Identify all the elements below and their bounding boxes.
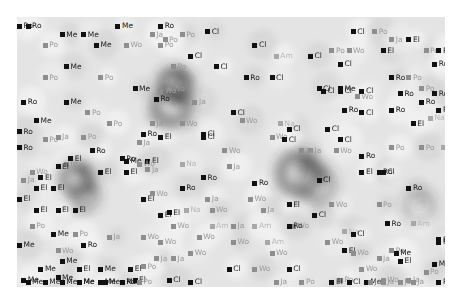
marker-square-icon	[325, 127, 330, 132]
marker-square-icon	[205, 29, 210, 34]
label-text: El	[79, 206, 86, 214]
label-text: Wo	[336, 201, 348, 209]
map-label-cl: Cl	[359, 109, 373, 117]
map-label-cl: Cl	[188, 278, 202, 286]
map-label-ro: Ro	[17, 144, 33, 152]
marker-square-icon	[308, 54, 313, 59]
marker-square-icon	[424, 48, 429, 53]
map-label-wo: Wo	[141, 233, 159, 241]
map-label-wo: Wo	[248, 195, 266, 203]
marker-square-icon	[248, 197, 253, 202]
map-label-el: El	[98, 168, 111, 176]
marker-square-icon	[150, 191, 155, 196]
map-label-el: El	[17, 195, 30, 203]
marker-square-icon	[21, 100, 26, 105]
marker-square-icon	[359, 154, 364, 159]
map-label-me: Me	[43, 278, 61, 286]
map-label-ja: Ja	[21, 176, 34, 184]
marker-square-icon	[201, 132, 206, 137]
label-text: Ro	[126, 278, 135, 286]
label-text: Ro	[443, 238, 445, 246]
marker-square-icon	[325, 240, 330, 245]
map-label-wo: Wo	[150, 190, 168, 198]
marker-square-icon	[154, 97, 159, 102]
label-text: Ro	[413, 184, 422, 192]
map-label-cl: Cl	[351, 230, 365, 238]
label-text: Ro	[293, 222, 302, 230]
marker-square-icon	[77, 267, 82, 272]
map-label-ro: Ro	[436, 278, 445, 286]
map-label-ja: Ja	[261, 206, 274, 214]
label-text: Am	[272, 238, 284, 246]
marker-square-icon	[81, 32, 86, 37]
hotspot-core	[173, 71, 186, 84]
map-label-na: Na	[428, 114, 445, 122]
marker-square-icon	[419, 145, 424, 150]
label-text: Wo	[332, 238, 344, 246]
map-label-me: Me	[98, 265, 116, 273]
marker-square-icon	[359, 110, 364, 115]
marker-square-icon	[158, 89, 163, 94]
map-label-na: Na	[278, 120, 295, 128]
label-text: Me	[41, 117, 52, 125]
map-label-cl: Cl	[381, 168, 395, 176]
label-text: Ja	[383, 255, 390, 263]
map-label-cl: Cl	[317, 176, 331, 184]
map-label-ro: Ro	[398, 90, 414, 98]
marker-square-icon	[411, 121, 416, 126]
marker-square-icon	[270, 75, 275, 80]
label-text: Wo	[340, 147, 352, 155]
marker-square-icon	[231, 240, 236, 245]
label-text: El	[387, 47, 394, 55]
marker-square-icon	[34, 118, 39, 123]
marker-square-icon	[51, 232, 56, 237]
label-text: Am	[259, 222, 271, 230]
map-label-am: Am	[411, 220, 430, 228]
label-text: Ja	[280, 278, 287, 286]
marker-square-icon	[381, 48, 386, 53]
map-label-ja: Ja	[56, 133, 69, 141]
map-label-ja: Ja	[368, 278, 381, 286]
label-text: Cl	[345, 136, 352, 144]
map-label-cl: Cl	[351, 28, 365, 36]
label-text: Ja	[199, 98, 206, 106]
label-text: Ro	[426, 98, 435, 106]
label-text: Ro	[366, 152, 375, 160]
map-label-na: Na	[184, 206, 201, 214]
marker-square-icon	[38, 175, 43, 180]
label-text: Ro	[148, 130, 157, 138]
map-label-me: Me	[60, 278, 78, 286]
marker-square-icon	[359, 267, 364, 272]
map-label-wo: Wo	[231, 238, 249, 246]
label-text: Ja	[267, 206, 274, 214]
label-text: El	[105, 168, 112, 176]
marker-square-icon	[137, 280, 142, 285]
map-label-po: Po	[30, 222, 45, 230]
marker-square-icon	[73, 232, 78, 237]
marker-square-icon	[210, 224, 215, 229]
marker-square-icon	[128, 267, 133, 272]
label-text: Wo	[238, 238, 250, 246]
marker-square-icon	[43, 75, 48, 80]
marker-square-icon	[342, 108, 347, 113]
map-label-ro: Ro	[252, 179, 268, 187]
map-label-me: Me	[34, 117, 52, 125]
map-label-po: Po	[81, 133, 96, 141]
marker-square-icon	[381, 280, 386, 285]
label-text: Po	[88, 133, 97, 141]
map-label-wo: Wo	[180, 120, 198, 128]
marker-square-icon	[17, 129, 22, 134]
map-label-ro: Ro	[90, 147, 106, 155]
label-text: Po	[36, 222, 45, 230]
marker-square-icon	[299, 148, 304, 153]
density-map[interactable]: MeMeMeJaPoRoPoMeWoPoMePoPoMeWoRoMePoPoJa…	[17, 17, 445, 287]
marker-square-icon	[192, 100, 197, 105]
map-label-wo: Wo	[210, 206, 228, 214]
marker-square-icon	[150, 121, 155, 126]
map-label-ja: Ja	[377, 255, 390, 263]
label-text: Wo	[276, 249, 288, 257]
map-label-me: Me	[394, 249, 412, 257]
marker-square-icon	[60, 280, 65, 285]
marker-square-icon	[188, 280, 193, 285]
label-text: Ja	[238, 222, 245, 230]
